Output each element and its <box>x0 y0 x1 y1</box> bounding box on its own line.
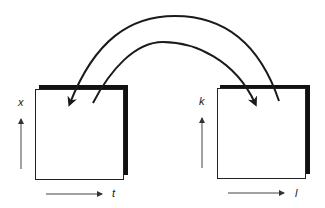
left-vertical-axis-label: x <box>18 97 24 108</box>
right-panel-shadow-right <box>306 85 310 174</box>
right-panel <box>218 85 311 179</box>
left-horizontal-axis-label: t <box>112 188 115 199</box>
right-horizontal-axis-label: l <box>295 188 297 199</box>
left-panel-shadow-top <box>39 85 128 89</box>
diagram-canvas <box>0 0 325 208</box>
left-panel <box>36 85 129 180</box>
left-panel-shadow-right <box>124 85 128 175</box>
right-vertical-axis-label: k <box>199 96 205 107</box>
right-panel-frame <box>218 89 306 179</box>
left-panel-frame <box>36 90 124 180</box>
